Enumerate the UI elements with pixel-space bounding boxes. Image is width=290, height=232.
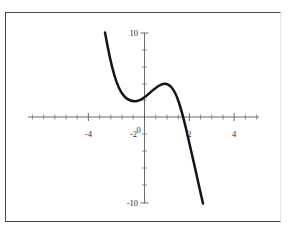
x-tick-label-neg4: -4 bbox=[85, 129, 93, 139]
y-tick-label-neg10: -10 bbox=[127, 198, 138, 208]
x-tick-label-zero: 0 bbox=[136, 125, 140, 135]
figure-container: -4 -2 0 2 4 10 -10 bbox=[0, 0, 290, 232]
plot-area: -4 -2 0 2 4 10 -10 bbox=[0, 0, 290, 232]
cubic-curve bbox=[105, 33, 203, 204]
x-tick-label-4: 4 bbox=[232, 129, 237, 139]
y-tick-label-10: 10 bbox=[130, 28, 139, 38]
